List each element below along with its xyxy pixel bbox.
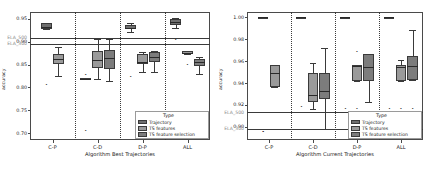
- y-tick-mark: [245, 39, 248, 40]
- legend-item[interactable]: Trajectory: [351, 120, 385, 125]
- median-line: [296, 17, 306, 18]
- outlier-marker: •: [356, 50, 358, 54]
- legend-item[interactable]: TS features: [138, 126, 175, 131]
- median-line: [407, 66, 417, 67]
- legend-label: Trajectory: [149, 120, 172, 125]
- whisker-cap-upper: [398, 60, 405, 61]
- legend-label: Trajectory: [362, 120, 385, 125]
- x-tick-label: ALL: [173, 144, 203, 150]
- legend-label: TS features: [362, 126, 388, 131]
- x-axis-title: Algorithm Best Trajectories: [30, 151, 210, 157]
- outlier-marker: •: [186, 63, 188, 67]
- whisker-cap-lower: [55, 76, 62, 77]
- whisker-cap-upper: [106, 39, 113, 40]
- whisker-cap-lower: [310, 109, 317, 110]
- box-ts-features: [270, 65, 280, 87]
- legend-title: Type: [163, 113, 174, 118]
- median-line: [194, 62, 205, 63]
- median-line: [384, 17, 394, 18]
- whisker-cap-lower: [151, 72, 158, 73]
- whisker-lower: [369, 81, 370, 102]
- reference-label-ela_500: ELA_500: [223, 110, 244, 115]
- legend-swatch: [138, 120, 147, 125]
- whisker-cap-upper: [409, 30, 416, 31]
- legend-title: Type: [376, 113, 387, 118]
- whisker-lower: [58, 64, 59, 76]
- median-line: [270, 73, 280, 74]
- whisker-cap-lower: [398, 81, 405, 82]
- x-tick-mark: [98, 140, 99, 143]
- reference-label-ela_300: ELA_300: [223, 126, 244, 131]
- reference-label-ela_500: ELA_500: [6, 35, 27, 40]
- x-tick-label: C-P: [254, 144, 284, 150]
- median-line: [92, 60, 103, 61]
- whisker-cap-upper: [94, 39, 101, 40]
- y-tick-label: 0.98: [223, 37, 244, 42]
- y-tick-label: 0.80: [6, 85, 27, 90]
- median-line: [104, 58, 115, 59]
- whisker-cap-lower: [127, 32, 134, 33]
- x-tick-mark: [401, 140, 402, 143]
- whisker-upper: [325, 48, 326, 73]
- legend-item[interactable]: Trajectory: [138, 120, 172, 125]
- y-tick-label: 0.95: [6, 16, 27, 21]
- x-tick-mark: [53, 140, 54, 143]
- y-tick-label: 0.94: [223, 81, 244, 86]
- y-tick-label: 1.00: [223, 15, 244, 20]
- median-line: [352, 66, 362, 67]
- whisker-cap-upper: [127, 23, 134, 24]
- y-tick-mark: [28, 133, 31, 134]
- y-axis-title: accuracy: [218, 68, 223, 90]
- outlier-marker: •: [84, 129, 86, 133]
- whisker-cap-lower: [196, 74, 203, 75]
- group-separator: [335, 12, 336, 140]
- legend-label: TS features: [149, 126, 175, 131]
- x-tick-mark: [269, 140, 270, 143]
- median-line: [182, 53, 193, 54]
- median-line: [258, 17, 268, 18]
- y-tick-label: 0.75: [6, 108, 27, 113]
- x-tick-label: ALL: [386, 144, 416, 150]
- box-ts-feature-selection: [319, 73, 329, 99]
- whisker-lower: [325, 99, 326, 129]
- boxplot-figure: 0.950.900.850.800.750.70ELA_500ELA_300C-…: [0, 0, 430, 173]
- median-line: [363, 67, 373, 68]
- x-tick-label: C-D: [83, 144, 113, 150]
- whisker-cap-lower: [365, 102, 372, 103]
- y-tick-label: 0.85: [6, 62, 27, 67]
- median-line: [53, 59, 64, 60]
- median-line: [319, 91, 329, 92]
- y-tick-label: 0.70: [6, 131, 27, 136]
- group-separator: [75, 12, 76, 140]
- legend-item[interactable]: TS feature selection: [351, 132, 408, 137]
- right-panel: 1.000.980.960.940.920.90ELA_500ELA_300C-…: [215, 0, 430, 173]
- outlier-marker: •: [344, 107, 346, 111]
- y-axis-title: accuracy: [1, 68, 6, 90]
- outlier-marker: •: [174, 37, 176, 41]
- y-tick-mark: [28, 65, 31, 66]
- whisker-cap-lower: [94, 79, 101, 80]
- x-tick-mark: [143, 140, 144, 143]
- outlier-marker: •: [84, 73, 86, 77]
- whisker-upper: [413, 30, 414, 56]
- whisker-cap-lower: [106, 81, 113, 82]
- whisker-cap-upper: [310, 63, 317, 64]
- whisker-lower: [199, 66, 200, 74]
- legend-item[interactable]: TS features: [351, 126, 388, 131]
- y-tick-mark: [245, 17, 248, 18]
- whisker-cap-lower: [184, 54, 191, 55]
- median-line: [396, 67, 406, 68]
- whisker-lower: [143, 64, 144, 73]
- legend-item[interactable]: TS feature selection: [138, 132, 195, 137]
- whisker-cap-lower: [172, 28, 179, 29]
- legend-swatch: [351, 126, 360, 131]
- whisker-upper: [58, 47, 59, 54]
- median-line: [170, 22, 181, 23]
- y-tick-mark: [28, 110, 31, 111]
- whisker-cap-lower: [43, 29, 50, 30]
- x-tick-mark: [357, 140, 358, 143]
- whisker-cap-lower: [321, 129, 328, 130]
- legend-label: TS feature selection: [362, 132, 408, 137]
- outlier-marker: •: [300, 105, 302, 109]
- y-tick-mark: [28, 42, 31, 43]
